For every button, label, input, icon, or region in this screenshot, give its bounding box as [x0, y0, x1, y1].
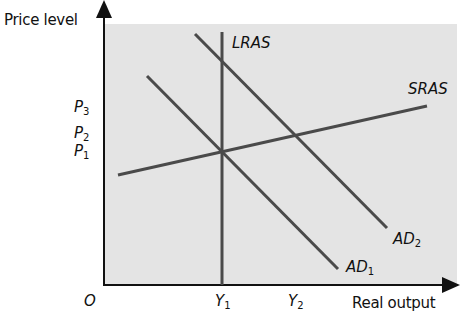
y2-label: Y2	[288, 292, 304, 311]
ad1-label: AD1	[346, 258, 374, 277]
p2-label: P2	[74, 124, 89, 143]
origin-label: O	[84, 292, 96, 310]
sras-curve	[118, 106, 427, 175]
p3-label: P3	[74, 98, 89, 117]
p1-label: P1	[74, 142, 89, 161]
y-axis-label: Price level	[4, 11, 78, 29]
sras-label: SRAS	[408, 80, 448, 98]
ad2-curve	[195, 34, 387, 228]
x-axis-label: Real output	[352, 294, 435, 312]
ad1-curve	[147, 76, 338, 269]
lras-label: LRAS	[232, 34, 271, 52]
y1-label: Y1	[215, 292, 231, 311]
ad2-label: AD2	[393, 230, 421, 249]
diagram-canvas	[0, 0, 460, 316]
